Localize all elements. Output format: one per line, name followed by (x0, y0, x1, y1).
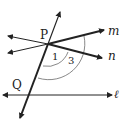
transversal-line-lower (20, 44, 48, 118)
angle-3-arc (38, 36, 85, 80)
angle-1-label: 1 (52, 52, 58, 62)
transversal-line (48, 12, 60, 44)
line-m-left (8, 44, 48, 53)
point-q-label: Q (12, 79, 22, 91)
point-p-label: P (40, 29, 48, 41)
geometry-diagram (0, 0, 133, 128)
angle-3-label: 3 (68, 56, 74, 66)
line-m-label: m (108, 25, 119, 37)
line-n-label: n (108, 50, 116, 62)
line-m (48, 30, 104, 44)
line-l-label: ℓ (114, 89, 119, 100)
